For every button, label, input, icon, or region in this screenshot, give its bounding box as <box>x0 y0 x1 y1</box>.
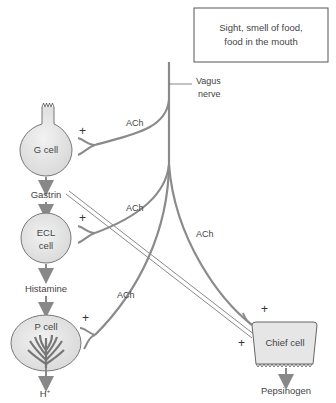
gastric-secretion-diagram: Sight, smell of food, food in the mouth … <box>0 0 336 403</box>
g-cell: G cell <box>20 103 72 176</box>
chief-cell: Chief cell <box>252 322 317 367</box>
ecl-cell-label-1: ECL <box>37 227 55 238</box>
ach-label-ecl: ACh <box>126 203 144 213</box>
chief-cell-label: Chief cell <box>265 337 304 348</box>
microvilli-icon <box>256 364 312 367</box>
stimulus-line1: Sight, smell of food, <box>219 22 302 33</box>
g-cell-label: G cell <box>34 144 58 155</box>
plus-ecl: + <box>79 211 86 225</box>
stimulus-line2: food in the mouth <box>224 36 297 47</box>
microvilli-icon <box>42 103 54 107</box>
vagus-label-line2: nerve <box>198 89 221 99</box>
h-plus-label: H+ <box>40 388 51 399</box>
plus-chief-left: + <box>238 336 245 350</box>
ecl-cell: ECL cell <box>21 213 71 263</box>
gastrin-label: Gastrin <box>31 189 62 200</box>
ecl-cell-label-2: cell <box>39 240 53 251</box>
pepsinogen-label: Pepsinogen <box>261 385 311 396</box>
histamine-label: Histamine <box>25 283 67 294</box>
ach-label-chief: ACh <box>196 229 214 239</box>
plus-chief-top: + <box>261 302 268 316</box>
vagus-label-line1: Vagus <box>196 76 221 86</box>
gastrin-pathway <box>66 191 255 338</box>
ach-label-gcell: ACh <box>126 118 144 128</box>
plus-pcell: + <box>82 311 89 325</box>
stimulus-box: Sight, smell of food, food in the mouth <box>194 8 328 62</box>
plus-gcell: + <box>79 124 86 138</box>
p-cell: P cell <box>11 315 81 371</box>
ach-label-pcell: ACh <box>117 290 135 300</box>
p-cell-label: P cell <box>34 321 57 332</box>
